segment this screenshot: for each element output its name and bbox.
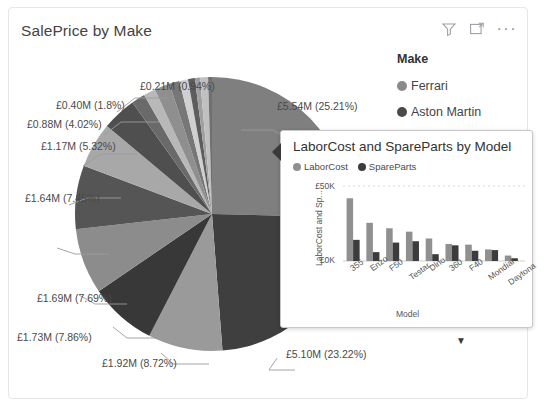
- page-title: SalePrice by Make: [21, 22, 152, 40]
- tooltip-bar[interactable]: [492, 250, 499, 261]
- pie-slice-label: £5.54M (25.21%): [277, 100, 358, 113]
- legend-color-swatch: [397, 81, 407, 91]
- tooltip-legend-label: SpareParts: [369, 161, 417, 172]
- tooltip-card: LaborCost and SpareParts by Model LaborC…: [280, 130, 533, 328]
- legend-item[interactable]: Ferrari: [397, 73, 525, 99]
- more-options-icon[interactable]: ···: [497, 21, 517, 37]
- legend-title: Make: [397, 52, 525, 66]
- tooltip-bar[interactable]: [366, 223, 373, 261]
- tooltip-bar-group: [347, 198, 518, 261]
- tooltip-legend-item[interactable]: SpareParts: [358, 161, 417, 172]
- tooltip-bar[interactable]: [406, 232, 413, 261]
- tooltip-y-tick: £50K: [305, 181, 335, 191]
- focus-mode-icon[interactable]: [469, 21, 485, 37]
- pie-slice-label: £1.17M (5.32%): [41, 140, 116, 153]
- tooltip-legend-swatch: [293, 163, 301, 171]
- tooltip-arrow-icon: [272, 143, 281, 161]
- tooltip-y-tick: £0K: [305, 255, 335, 265]
- tooltip-legend: LaborCostSpareParts: [293, 161, 416, 172]
- tooltip-bar[interactable]: [386, 228, 393, 261]
- filter-icon[interactable]: [441, 21, 457, 37]
- legend-item[interactable]: Aston Martin: [397, 99, 525, 125]
- visual-card: SalePrice by Make ···: [8, 7, 528, 399]
- pie-slice-label: £0.40M (1.8%): [56, 99, 125, 112]
- tooltip-x-axis-label: Model: [281, 309, 534, 319]
- tooltip-legend-item[interactable]: LaborCost: [293, 161, 348, 172]
- visual-header-icons: ···: [441, 21, 517, 37]
- tooltip-bar-chart: LaborCost and Sp... £50K £0K 355EnzoF50T…: [281, 175, 534, 327]
- tooltip-bar[interactable]: [465, 245, 472, 261]
- tooltip-legend-swatch: [358, 163, 366, 171]
- legend-item-label: Ferrari: [411, 79, 448, 93]
- tooltip-bar[interactable]: [485, 249, 492, 261]
- chevron-down-icon[interactable]: ▼: [397, 335, 525, 346]
- pie-slice-label: £5.10M (23.22%): [286, 348, 367, 361]
- pie-slice-label: £0.88M (4.02%): [27, 118, 102, 131]
- pie-slice-label: £0.21M (0.94%): [140, 80, 215, 93]
- pie-slice-label: £1.69M (7.69%): [37, 292, 112, 305]
- tooltip-legend-label: LaborCost: [304, 161, 348, 172]
- tooltip-title: LaborCost and SpareParts by Model: [293, 139, 511, 154]
- pie-slice-label: £1.92M (8.72%): [102, 357, 177, 370]
- legend-color-swatch: [397, 107, 407, 117]
- pie-slice-label: £1.73M (7.86%): [17, 331, 92, 344]
- tooltip-bar[interactable]: [347, 198, 354, 261]
- pie-slice-label: £1.64M (7.45%): [25, 192, 100, 205]
- legend-item-label: Aston Martin: [411, 105, 481, 119]
- tooltip-bar[interactable]: [412, 241, 419, 261]
- tooltip-bar[interactable]: [445, 244, 452, 261]
